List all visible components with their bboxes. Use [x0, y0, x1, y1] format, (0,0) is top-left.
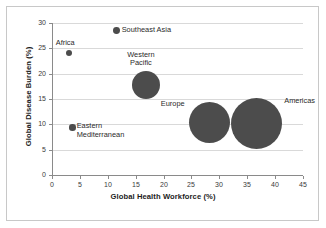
plot-area: 051015202530 051015202530354045 AfricaEa… — [0, 0, 326, 228]
x-axis-tick — [136, 176, 137, 179]
x-axis-tick-label: 25 — [181, 181, 201, 188]
x-axis-tick-label: 35 — [237, 181, 257, 188]
gridline-horizontal — [52, 150, 303, 151]
x-axis-tick-label: 30 — [209, 181, 229, 188]
x-axis-tick-label: 0 — [42, 181, 62, 188]
x-axis-tick — [52, 176, 53, 179]
x-axis-tick — [219, 176, 220, 179]
y-axis-tick — [49, 74, 52, 75]
y-axis-tick — [49, 99, 52, 100]
x-axis-tick-label: 15 — [126, 181, 146, 188]
x-axis-title: Global Health Workforce (%) — [0, 192, 326, 201]
gridline-horizontal — [52, 23, 303, 24]
data-point-bubble — [66, 50, 72, 56]
x-axis-tick-label: 5 — [70, 181, 90, 188]
data-point-bubble — [189, 102, 230, 143]
data-point-bubble — [113, 27, 120, 34]
data-point-bubble — [132, 71, 160, 99]
gridline-horizontal — [52, 48, 303, 49]
point-label-europe: Europe — [161, 100, 185, 109]
y-axis-tick-label: 0 — [26, 171, 46, 178]
y-axis-tick — [49, 23, 52, 24]
y-axis-tick — [49, 150, 52, 151]
data-point-bubble — [231, 98, 282, 149]
point-label-africa: Africa — [56, 39, 75, 48]
x-axis-tick — [303, 176, 304, 179]
y-axis-line — [52, 23, 53, 176]
point-label-southeast-asia: Southeast Asia — [122, 26, 171, 35]
x-axis-tick-label: 40 — [265, 181, 285, 188]
x-axis-tick — [108, 176, 109, 179]
x-axis-tick — [164, 176, 165, 179]
point-label-americas: Americas — [284, 97, 315, 106]
point-label-western-pacific: WesternPacific — [127, 51, 154, 68]
point-label-eastern-mediterranean: EasternMediterranean — [77, 122, 125, 139]
y-axis-tick — [49, 124, 52, 125]
x-axis-tick — [275, 176, 276, 179]
gridline-horizontal — [52, 74, 303, 75]
x-axis-tick-label: 10 — [98, 181, 118, 188]
x-axis-tick-label: 20 — [154, 181, 174, 188]
x-axis-tick — [247, 176, 248, 179]
y-axis-title: Global Disease Burden (%) — [24, 22, 33, 172]
y-axis-tick — [49, 48, 52, 49]
x-axis-line — [52, 175, 303, 176]
x-axis-tick-label: 45 — [293, 181, 313, 188]
x-axis-tick — [80, 176, 81, 179]
x-axis-tick — [191, 176, 192, 179]
chart-screenshot: 051015202530 051015202530354045 AfricaEa… — [0, 0, 326, 228]
data-point-bubble — [69, 124, 75, 130]
